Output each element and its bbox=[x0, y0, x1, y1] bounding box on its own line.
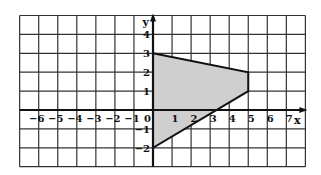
x-tick-label: 6 bbox=[267, 113, 274, 124]
x-tick-label: −6 bbox=[29, 113, 44, 124]
coordinate-graph: −6−5−4−3−2−101234567 4321−1−2 x y bbox=[0, 0, 321, 175]
x-tick-label: −2 bbox=[105, 113, 120, 124]
y-axis-arrow-icon bbox=[150, 14, 156, 22]
x-tick-label: −3 bbox=[86, 113, 101, 124]
x-tick-label: −5 bbox=[48, 113, 63, 124]
x-axis-arrow-icon bbox=[299, 107, 307, 113]
x-tick-label: 4 bbox=[229, 113, 236, 124]
x-tick-label: 7 bbox=[286, 113, 293, 124]
x-tick-label: −1 bbox=[124, 113, 139, 124]
x-tick-label: −4 bbox=[67, 113, 82, 124]
shaded-polygon bbox=[153, 53, 248, 148]
x-axis-label: x bbox=[294, 114, 301, 127]
x-tick-label: 0 bbox=[144, 113, 151, 124]
x-tick-label: 1 bbox=[172, 113, 179, 124]
y-tick-label: −1 bbox=[135, 124, 150, 135]
y-tick-label: 3 bbox=[143, 48, 150, 59]
x-tick-label: 5 bbox=[248, 113, 255, 124]
y-axis-label: y bbox=[142, 16, 150, 29]
y-tick-label: 1 bbox=[143, 86, 150, 97]
x-tick-label: 3 bbox=[210, 113, 217, 124]
x-tick-label: 2 bbox=[191, 113, 198, 124]
y-tick-label: 4 bbox=[143, 29, 150, 40]
y-tick-label: −2 bbox=[135, 143, 150, 154]
y-tick-label: 2 bbox=[143, 67, 150, 78]
